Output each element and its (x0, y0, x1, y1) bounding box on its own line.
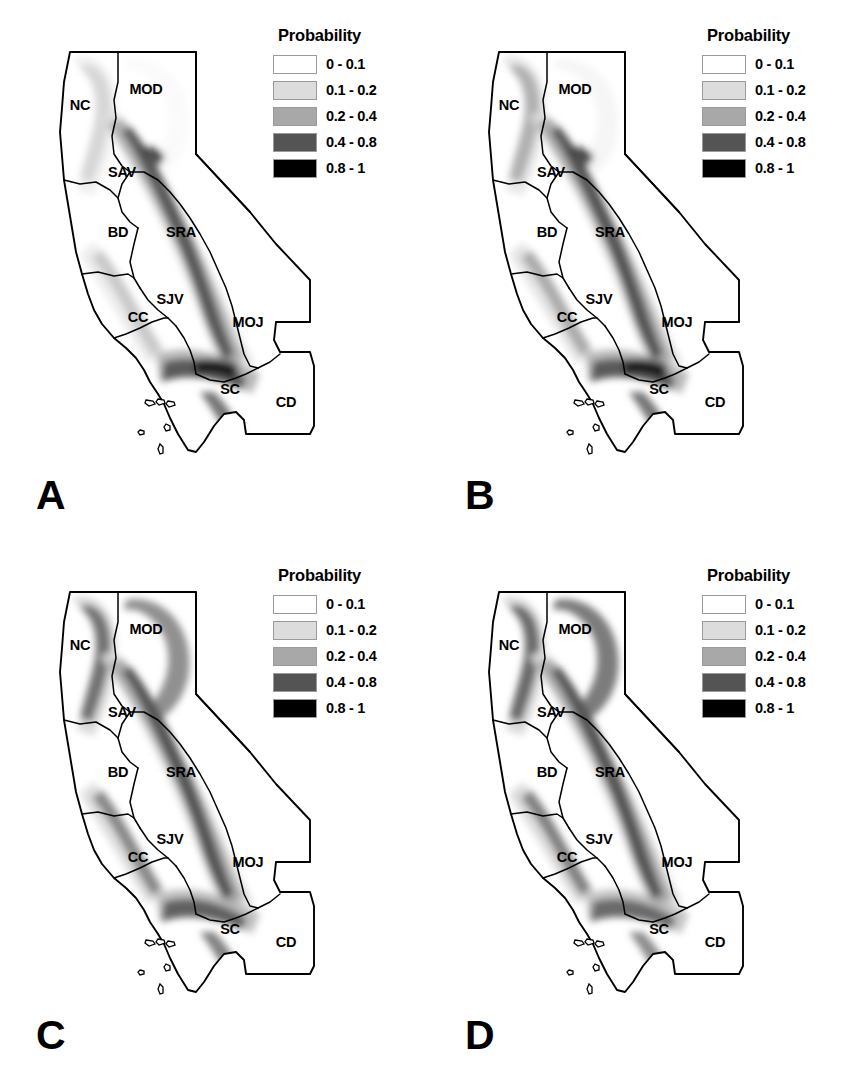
panel-a: NCMODSAVBDSRASJVCCMOJSCCD Probability 0 … (0, 0, 429, 540)
channel-islands (138, 399, 175, 454)
region-label-nc: NC (70, 97, 91, 113)
region-label-bd: BD (537, 224, 558, 240)
legend-swatch (702, 647, 746, 666)
legend-label: 0.8 - 1 (755, 160, 794, 176)
region-label-moj: MOJ (662, 854, 693, 870)
legend-b: Probability 0 - 0.10.1 - 0.20.2 - 0.40.4… (702, 26, 842, 181)
region-label-cd: CD (705, 934, 726, 950)
region-label-bd: BD (108, 224, 129, 240)
legend-swatch (702, 699, 746, 718)
region-label-nc: NC (70, 637, 91, 653)
legend-swatch (273, 81, 317, 100)
region-label-mod: MOD (558, 621, 591, 637)
region-label-sjv: SJV (157, 831, 184, 847)
legend-title: Probability (278, 26, 413, 45)
region-label-mod: MOD (129, 621, 162, 637)
region-label-sra: SRA (166, 764, 197, 780)
region-label-sjv: SJV (586, 831, 613, 847)
legend-label: 0.4 - 0.8 (326, 134, 377, 150)
legend-row: 0.2 - 0.4 (702, 103, 842, 129)
channel-islands (567, 399, 604, 454)
legend-title: Probability (707, 566, 842, 585)
legend-row: 0.8 - 1 (273, 155, 413, 181)
legend-swatch (702, 159, 746, 178)
legend-row: 0.1 - 0.2 (273, 617, 413, 643)
legend-label: 0 - 0.1 (326, 56, 365, 72)
region-label-bd: BD (537, 764, 558, 780)
panel-letter-d: D (465, 1015, 495, 1056)
legend-row: 0.4 - 0.8 (702, 129, 842, 155)
region-label-moj: MOJ (233, 314, 264, 330)
legend-label: 0.1 - 0.2 (326, 622, 377, 638)
legend-row: 0.8 - 1 (273, 695, 413, 721)
legend-label: 0.1 - 0.2 (755, 82, 806, 98)
region-label-cc: CC (128, 849, 149, 865)
legend-swatch (273, 647, 317, 666)
legend-row: 0.2 - 0.4 (273, 643, 413, 669)
legend-row: 0 - 0.1 (273, 51, 413, 77)
region-label-cd: CD (276, 394, 297, 410)
region-label-sav: SAV (537, 164, 566, 180)
legend-row: 0 - 0.1 (273, 591, 413, 617)
legend-row: 0.2 - 0.4 (273, 103, 413, 129)
panel-letter-b: B (465, 475, 495, 516)
legend-swatch (702, 595, 746, 614)
legend-swatch (273, 595, 317, 614)
region-label-mod: MOD (129, 81, 162, 97)
legend-swatch (702, 81, 746, 100)
region-label-sc: SC (220, 381, 240, 397)
legend-label: 0.8 - 1 (326, 160, 365, 176)
legend-swatch (273, 55, 317, 74)
region-label-sjv: SJV (586, 291, 613, 307)
legend-row: 0.4 - 0.8 (702, 669, 842, 695)
legend-label: 0.1 - 0.2 (755, 622, 806, 638)
legend-swatch (273, 621, 317, 640)
legend-row: 0.4 - 0.8 (273, 669, 413, 695)
legend-row: 0.2 - 0.4 (702, 643, 842, 669)
panel-letter-a: A (36, 475, 66, 516)
legend-label: 0 - 0.1 (326, 596, 365, 612)
region-label-sjv: SJV (157, 291, 184, 307)
panel-b: NCMODSAVBDSRASJVCCMOJSCCD Probability 0 … (429, 0, 858, 540)
legend-label: 0.2 - 0.4 (755, 108, 806, 124)
legend-row: 0.1 - 0.2 (702, 617, 842, 643)
region-label-cd: CD (276, 934, 297, 950)
legend-row: 0 - 0.1 (702, 51, 842, 77)
region-label-bd: BD (108, 764, 129, 780)
region-label-nc: NC (499, 637, 520, 653)
legend-swatch (273, 699, 317, 718)
legend-label: 0 - 0.1 (755, 56, 794, 72)
legend-label: 0.2 - 0.4 (755, 648, 806, 664)
legend-title: Probability (278, 566, 413, 585)
legend-row: 0.4 - 0.8 (273, 129, 413, 155)
legend-swatch (273, 159, 317, 178)
legend-label: 0.4 - 0.8 (326, 674, 377, 690)
legend-label: 0.2 - 0.4 (326, 108, 377, 124)
region-label-moj: MOJ (233, 854, 264, 870)
region-label-sc: SC (649, 921, 669, 937)
legend-row: 0.1 - 0.2 (273, 77, 413, 103)
region-label-moj: MOJ (662, 314, 693, 330)
legend-label: 0.8 - 1 (755, 700, 794, 716)
legend-swatch (702, 673, 746, 692)
region-label-sc: SC (649, 381, 669, 397)
legend-swatch (702, 55, 746, 74)
legend-c: Probability 0 - 0.10.1 - 0.20.2 - 0.40.4… (273, 566, 413, 721)
legend-label: 0 - 0.1 (755, 596, 794, 612)
region-label-sra: SRA (166, 224, 197, 240)
region-label-mod: MOD (558, 81, 591, 97)
region-label-sav: SAV (108, 704, 137, 720)
legend-swatch (702, 621, 746, 640)
region-label-sra: SRA (595, 224, 626, 240)
channel-islands (138, 939, 175, 994)
region-label-cd: CD (705, 394, 726, 410)
legend-label: 0.1 - 0.2 (326, 82, 377, 98)
legend-swatch (273, 673, 317, 692)
panel-c: NCMODSAVBDSRASJVCCMOJSCCD Probability 0 … (0, 540, 429, 1080)
region-label-nc: NC (499, 97, 520, 113)
legend-row: 0.8 - 1 (702, 155, 842, 181)
legend-label: 0.4 - 0.8 (755, 674, 806, 690)
region-label-sra: SRA (595, 764, 626, 780)
legend-label: 0.2 - 0.4 (326, 648, 377, 664)
panel-letter-c: C (36, 1015, 66, 1056)
